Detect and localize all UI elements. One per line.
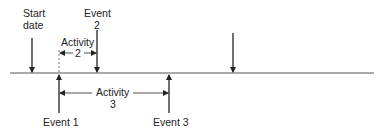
- event3-label: Event 3: [153, 116, 189, 128]
- start-date-label-line1: Start: [23, 7, 45, 19]
- event1-label: Event 1: [43, 116, 79, 128]
- timeline-diagram: Start date Event 2 Activity 2 Activity 3…: [0, 0, 384, 134]
- start-date-label-line2: date: [23, 19, 44, 31]
- activity3-label-line1: Activity: [96, 86, 130, 98]
- event2-label-line1: Event: [84, 7, 111, 19]
- activity3-label-line2: 3: [110, 98, 116, 110]
- event2-label-line2: 2: [94, 19, 100, 31]
- activity2-label-line2: 2: [75, 47, 81, 59]
